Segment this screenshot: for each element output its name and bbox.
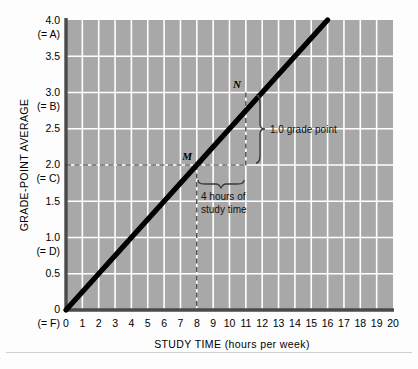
y-tick-2-5: 2.5 [45,122,60,134]
x-tick-3: 3 [112,317,118,329]
y-tick-1-0-grade: (= D) [36,245,60,257]
x-tick-0: 0 [63,317,69,329]
y-tick-1-0: 1.0 [45,231,60,243]
x-tick-5: 5 [145,317,151,329]
y-tick-4-0-grade: (= A) [38,28,60,40]
y-axis-title: GRADE-POINT AVERAGE [18,99,30,232]
x-tick-11: 11 [240,317,251,329]
y-tick-0-grade: (= F) [38,317,60,329]
x-tick-17: 17 [338,317,350,329]
chart-figure: M N 1.0 grade point 4 hours of study tim… [0,0,418,369]
x-tick-20: 20 [387,317,399,329]
x-tick-14: 14 [289,317,301,329]
x-axis-title: STUDY TIME (hours per week) [154,338,310,350]
rise-annotation-text: 1.0 grade point [270,124,337,135]
y-tick-3-5: 3.5 [45,50,60,62]
x-tick-4: 4 [128,317,134,329]
y-tick-2-0: 2.0 [45,158,60,170]
y-tick-0-5: 0.5 [45,267,60,279]
x-tick-15: 15 [305,317,317,329]
x-tick-8: 8 [194,317,200,329]
y-tick-4-0: 4.0 [45,14,60,26]
y-tick-2-0-grade: (= C) [36,172,60,184]
y-tick-3-0-grade: (= B) [37,100,60,112]
point-label-m: M [181,150,193,162]
y-tick-1-5: 1.5 [45,195,60,207]
run-annotation-line1: 4 hours of [201,191,246,202]
page-bottom-rule [6,352,412,353]
x-tick-2: 2 [96,317,102,329]
run-annotation-line2: study time [201,204,247,215]
y-tick-3-0: 3.0 [45,86,60,98]
x-tick-18: 18 [354,317,366,329]
x-tick-10: 10 [224,317,236,329]
x-tick-labels: 0 1 2 3 4 5 6 7 8 9 10 11 12 13 14 15 16… [63,317,399,329]
x-tick-9: 9 [210,317,216,329]
x-tick-13: 13 [273,317,285,329]
x-tick-12: 12 [256,317,268,329]
point-label-n: N [232,78,242,90]
y-tick-0: 0 [54,303,60,315]
x-tick-1: 1 [79,317,85,329]
x-tick-6: 6 [161,317,167,329]
x-tick-7: 7 [178,317,184,329]
chart-svg: M N 1.0 grade point 4 hours of study tim… [0,0,418,369]
x-tick-19: 19 [371,317,383,329]
x-tick-16: 16 [322,317,334,329]
